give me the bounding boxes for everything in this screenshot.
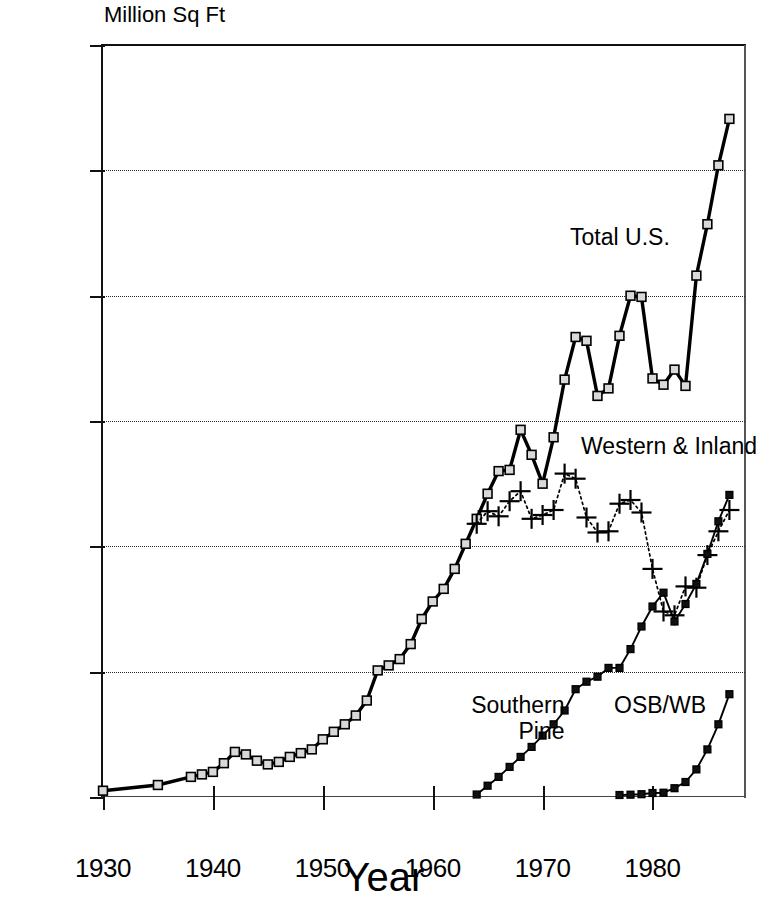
annotation-southern-pine: Southern Pine	[471, 693, 564, 745]
series-canvas	[103, 45, 747, 797]
chart-page: Million Sq Ft 05000100001500020000250003…	[0, 0, 768, 913]
annotation-total-u-s: Total U.S.	[570, 225, 670, 251]
series-western-inland	[467, 464, 740, 626]
annotation-western-inland: Western & Inland	[581, 434, 757, 460]
x-axis-title: Year	[0, 855, 768, 900]
plot-area: 050001000015000200002500030000 193019401…	[101, 45, 745, 797]
y-axis-title: Million Sq Ft	[104, 2, 225, 28]
series-southern-pine	[473, 492, 733, 798]
annotation-osb-wb: OSB/WB	[614, 693, 706, 719]
